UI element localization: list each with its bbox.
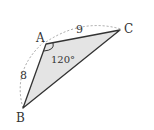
vertex-label-c: C (124, 22, 133, 36)
vertex-label-b: B (16, 111, 25, 125)
angle-label-a: 120° (51, 54, 75, 65)
side-label-ab: 8 (20, 69, 27, 82)
side-label-ac: 9 (76, 23, 83, 36)
vertex-label-a: A (35, 31, 45, 45)
triangle-diagram: A C B 9 8 120° (0, 0, 154, 130)
